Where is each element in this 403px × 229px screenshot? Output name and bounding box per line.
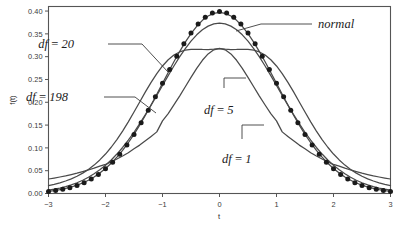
data-point-marker: [196, 21, 201, 26]
y-tick-label: 0.00: [28, 189, 42, 198]
data-point-marker: [124, 142, 129, 147]
data-point-marker: [238, 21, 243, 26]
data-point-marker: [381, 188, 386, 193]
y-tick-label: 0.40: [28, 7, 42, 16]
data-point-marker: [167, 67, 172, 72]
data-point-marker: [181, 41, 186, 46]
data-point-marker: [295, 120, 300, 125]
data-point-marker: [153, 94, 158, 99]
y-axis-label: f(t): [8, 95, 17, 105]
data-point-marker: [210, 10, 215, 15]
data-point-marker: [267, 67, 272, 72]
y-tick-label: 0.15: [28, 121, 42, 130]
y-tick-label: 0.30: [28, 52, 42, 61]
data-point-marker: [388, 189, 393, 194]
data-point-marker: [246, 30, 251, 35]
data-point-marker: [67, 185, 72, 190]
data-point-marker: [46, 189, 51, 194]
data-point-marker: [174, 54, 179, 59]
data-point-marker: [89, 177, 94, 182]
data-point-marker: [367, 185, 372, 190]
data-point-marker: [324, 160, 329, 165]
x-tick-label: 0: [217, 200, 221, 209]
data-point-marker: [96, 172, 101, 177]
data-point-marker: [345, 177, 350, 182]
data-point-marker: [303, 132, 308, 137]
data-point-marker: [317, 152, 322, 157]
data-point-marker: [310, 142, 315, 147]
y-tick-label: 0.05: [28, 166, 42, 175]
data-point-marker: [352, 180, 357, 185]
x-tick-label: 1: [274, 200, 278, 209]
annotation-df5: df = 5: [204, 103, 233, 117]
data-point-marker: [60, 187, 65, 192]
annotation-df198: df = 198: [26, 90, 69, 104]
annotation-normal: normal: [318, 17, 355, 31]
x-tick-label: −3: [44, 200, 52, 209]
data-point-marker: [224, 10, 229, 15]
data-point-marker: [338, 172, 343, 177]
data-point-marker: [231, 15, 236, 20]
data-point-marker: [360, 183, 365, 188]
x-tick-label: 3: [388, 200, 392, 209]
x-tick-label: 2: [331, 200, 335, 209]
x-tick-label: −2: [101, 200, 109, 209]
data-point-marker: [331, 166, 336, 171]
data-point-marker: [281, 94, 286, 99]
y-tick-label: 0.25: [28, 75, 42, 84]
data-point-marker: [160, 81, 165, 86]
y-tick-label: 0.10: [28, 144, 42, 153]
data-point-marker: [217, 9, 222, 14]
x-tick-label: −1: [158, 200, 166, 209]
data-point-marker: [110, 160, 115, 165]
data-point-marker: [288, 108, 293, 113]
data-point-marker: [189, 30, 194, 35]
data-point-marker: [117, 152, 122, 157]
data-point-marker: [374, 187, 379, 192]
t-distribution-chart: −3−2−10123 0.000.050.100.150.200.250.300…: [0, 0, 403, 229]
data-point-marker: [53, 188, 58, 193]
data-point-marker: [139, 120, 144, 125]
data-point-marker: [82, 180, 87, 185]
figure-background: [0, 0, 403, 229]
data-point-marker: [103, 166, 108, 171]
data-point-marker: [203, 15, 208, 20]
data-point-marker: [274, 81, 279, 86]
annotation-df1: df = 1: [222, 152, 251, 166]
data-point-marker: [75, 183, 80, 188]
annotation-df20: df = 20: [38, 37, 74, 51]
data-point-marker: [260, 54, 265, 59]
data-point-marker: [253, 41, 258, 46]
data-point-marker: [132, 132, 137, 137]
